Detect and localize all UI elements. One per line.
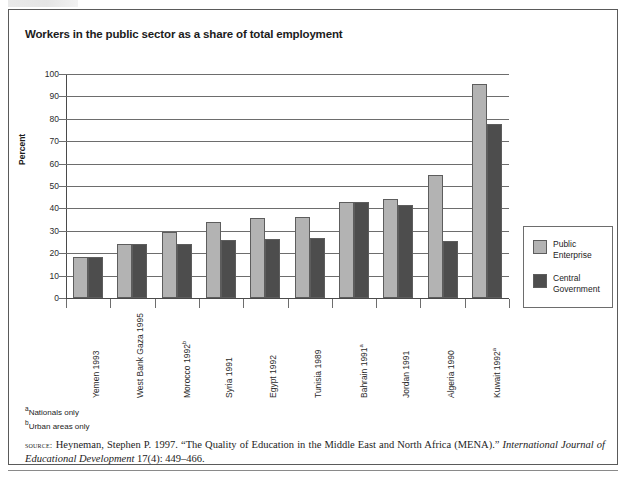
bar-public-enterprise[interactable] <box>428 175 443 298</box>
x-tick-mark <box>376 299 377 308</box>
source-citation: source: Heyneman, Stephen P. 1997. “The … <box>25 438 605 466</box>
legend-swatch <box>533 240 547 254</box>
x-tick-label: Algeria 1990 <box>447 350 456 398</box>
y-tick-mark-10 <box>59 276 66 277</box>
bar-central-government[interactable] <box>310 238 325 298</box>
bar-central-government[interactable] <box>354 202 369 298</box>
y-tick-label-0: 0 <box>33 294 59 303</box>
x-tick-mark <box>332 299 333 308</box>
y-tick-label-30: 30 <box>33 227 59 236</box>
bar-central-government[interactable] <box>398 205 413 298</box>
footnote-marker: b <box>181 341 187 344</box>
y-tick-mark-50 <box>59 186 66 187</box>
bars-layer <box>66 74 509 298</box>
bar-group <box>73 74 103 298</box>
source-text-part1: Heyneman, Stephen P. 1997. “The Quality … <box>53 439 503 450</box>
page-title: Workers in the public sector as a share … <box>25 28 343 40</box>
x-tick-mark <box>66 299 67 308</box>
bar-public-enterprise[interactable] <box>339 202 354 298</box>
bar-public-enterprise[interactable] <box>295 217 310 298</box>
x-axis-tick-labels: Yemen 1993West Bank Gaza 1995Morocco 199… <box>66 310 509 402</box>
x-tick-label: Syria 1991 <box>225 357 234 398</box>
y-tick-mark-90 <box>59 96 66 97</box>
y-tick-mark-30 <box>59 231 66 232</box>
bar-central-government[interactable] <box>132 244 147 298</box>
y-tick-mark-70 <box>59 141 66 142</box>
x-tick-mark <box>509 299 510 308</box>
legend-item-central-government[interactable]: Central Government <box>533 273 600 294</box>
y-tick-label-40: 40 <box>33 204 59 213</box>
source-label: source: <box>25 440 53 450</box>
y-tick-mark-100 <box>59 74 66 75</box>
y-tick-mark-60 <box>59 164 66 165</box>
y-axis-tick-labels: 1009080706050403020100 <box>31 65 59 305</box>
x-tick-mark <box>420 299 421 308</box>
x-tick-label: Egypt 1992 <box>269 355 278 398</box>
bar-group <box>339 74 369 298</box>
bar-central-government[interactable] <box>487 124 502 298</box>
bar-public-enterprise[interactable] <box>117 244 132 298</box>
y-tick-label-80: 80 <box>33 115 59 124</box>
y-tick-mark-80 <box>59 119 66 120</box>
chart-legend: Public EnterpriseCentral Government <box>523 226 613 308</box>
y-tick-label-70: 70 <box>33 137 59 146</box>
footnote-marker: a <box>491 348 497 351</box>
footnote-a: aNationals only <box>25 404 90 418</box>
x-tick-mark <box>288 299 289 308</box>
y-axis-title: Percent <box>17 134 27 165</box>
x-tick-label: Jordan 1991 <box>402 351 411 398</box>
bar-public-enterprise[interactable] <box>206 222 221 298</box>
bar-group <box>117 74 147 298</box>
bar-public-enterprise[interactable] <box>73 257 88 298</box>
footnotes: aNationals onlybUrban areas only <box>25 404 90 431</box>
x-tick-label: West Bank Gaza 1995 <box>136 313 145 398</box>
bar-public-enterprise[interactable] <box>162 232 177 298</box>
y-tick-mark-0 <box>59 298 66 299</box>
source-text-part2: 17(4): 449–466. <box>134 453 204 464</box>
x-tick-label: Kuwait 1992a <box>491 348 501 398</box>
bar-public-enterprise[interactable] <box>472 84 487 298</box>
x-tick-label: Bahrain 1991a <box>358 344 368 398</box>
bar-group <box>250 74 280 298</box>
x-tick-label: Yemen 1993 <box>92 351 101 398</box>
y-tick-mark-20 <box>59 253 66 254</box>
bar-central-government[interactable] <box>443 241 458 298</box>
x-tick-mark <box>199 299 200 308</box>
y-tick-mark-40 <box>59 208 66 209</box>
y-tick-label-10: 10 <box>33 272 59 281</box>
bar-group <box>428 74 458 298</box>
bar-public-enterprise[interactable] <box>250 218 265 298</box>
bar-group <box>162 74 192 298</box>
bottom-rule <box>8 470 618 471</box>
x-tick-mark <box>110 299 111 308</box>
y-tick-label-90: 90 <box>33 92 59 101</box>
bar-central-government[interactable] <box>88 257 103 298</box>
plot-area <box>66 65 509 298</box>
clipped-header-fragment <box>8 0 78 7</box>
bar-central-government[interactable] <box>221 240 236 298</box>
y-tick-label-100: 100 <box>33 70 59 79</box>
figure-frame: Workers in the public sector as a share … <box>8 9 618 465</box>
bar-group <box>383 74 413 298</box>
y-tick-label-20: 20 <box>33 249 59 258</box>
x-axis-tick-marks <box>66 299 509 309</box>
bar-central-government[interactable] <box>177 244 192 298</box>
bar-group <box>206 74 236 298</box>
footnote-b: bUrban areas only <box>25 418 90 432</box>
x-tick-mark <box>243 299 244 308</box>
bar-group <box>472 74 502 298</box>
x-tick-label: Tunisia 1989 <box>314 350 323 398</box>
x-tick-mark <box>465 299 466 308</box>
y-tick-label-50: 50 <box>33 182 59 191</box>
legend-label: Central Government <box>553 273 600 294</box>
bar-central-government[interactable] <box>265 239 280 298</box>
bar-public-enterprise[interactable] <box>383 199 398 298</box>
x-tick-mark <box>155 299 156 308</box>
bar-group <box>295 74 325 298</box>
footnote-marker: a <box>358 344 364 347</box>
y-tick-label-60: 60 <box>33 160 59 169</box>
x-tick-label: Morocco 1992b <box>181 341 191 398</box>
legend-label: Public Enterprise <box>553 239 592 260</box>
legend-swatch <box>533 274 547 288</box>
legend-item-public-enterprise[interactable]: Public Enterprise <box>533 239 592 260</box>
